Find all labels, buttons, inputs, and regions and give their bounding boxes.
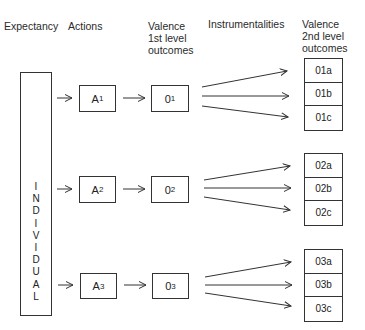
outcome-box-o2: 02 — [151, 176, 189, 203]
arrow-o2-to-02c — [204, 197, 290, 210]
second-level-group-2: 02a 02b 02c — [304, 153, 343, 226]
outcome-subscript: 3 — [171, 282, 175, 291]
outcome-subscript: 1 — [171, 94, 175, 103]
outcome-box-o1: 01 — [151, 85, 189, 112]
action-subscript: 2 — [99, 185, 103, 194]
action-label: A — [92, 184, 99, 196]
second-level-outcome: 01b — [305, 83, 342, 107]
second-level-outcome: 03b — [305, 274, 342, 298]
second-level-outcome: 02b — [305, 178, 342, 202]
second-level-outcome: 03a — [305, 250, 342, 274]
arrow-o3-to-03a — [205, 262, 291, 277]
action-box-a2: A2 — [79, 176, 116, 203]
arrow-o1-to-01c — [202, 106, 288, 117]
second-level-outcome: 02c — [305, 201, 342, 225]
outcome-subscript: 2 — [171, 185, 175, 194]
second-level-outcome: 01a — [305, 59, 342, 83]
action-label: A — [93, 280, 100, 292]
outcome-box-o3: 03 — [152, 273, 189, 299]
action-subscript: 3 — [100, 282, 104, 291]
arrow-o1-to-01a — [202, 71, 287, 87]
second-level-group-1: 01a 01b 01c — [304, 58, 343, 131]
arrow-o3-to-03c — [205, 293, 291, 306]
arrow-o2-to-02a — [204, 166, 290, 180]
second-level-outcome: 01c — [305, 106, 342, 130]
second-level-outcome: 03c — [305, 297, 342, 321]
action-box-a3: A3 — [80, 273, 117, 299]
action-subscript: 1 — [99, 94, 103, 103]
second-level-group-3: 03a 03b 03c — [304, 249, 343, 322]
action-label: A — [92, 93, 99, 105]
action-box-a1: A1 — [79, 85, 116, 112]
second-level-outcome: 02a — [305, 154, 342, 178]
